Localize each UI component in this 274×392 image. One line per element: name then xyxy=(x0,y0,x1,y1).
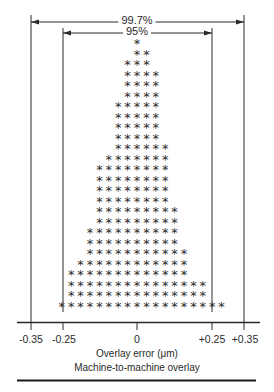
asterisk-mark: * xyxy=(190,299,197,314)
x-tick-label-p025: +0.25 xyxy=(199,333,226,345)
asterisk-mark: * xyxy=(200,299,207,314)
x-axis-title: Overlay error (μm) xyxy=(96,348,178,359)
x-tick-label-m035: -0.35 xyxy=(19,333,43,345)
chart-caption: Machine-to-machine overlay xyxy=(74,362,200,373)
asterisk-mark: * xyxy=(115,299,122,314)
asterisk-mark: * xyxy=(96,299,103,314)
x-tick-label-m025: -0.25 xyxy=(52,333,76,345)
asterisk-mark: * xyxy=(59,299,66,314)
asterisk-mark: * xyxy=(209,299,216,314)
asterisk-mark: * xyxy=(162,299,169,314)
asterisk-mark: * xyxy=(124,299,131,314)
asterisk-mark: * xyxy=(87,299,94,314)
asterisk-mark: * xyxy=(106,299,113,314)
asterisk-mark: * xyxy=(134,299,141,314)
asterisk-mark: * xyxy=(68,299,75,314)
x-tick-label-p035: +0.35 xyxy=(232,333,259,345)
asterisk-mark: * xyxy=(143,299,150,314)
asterisk-mark: * xyxy=(181,299,188,314)
x-axis xyxy=(17,322,260,330)
overlay-histogram-chart: ****************************************… xyxy=(0,0,274,392)
pct-95-label: 95% xyxy=(123,25,151,37)
asterisk-mark: * xyxy=(218,299,225,314)
asterisk-rows: ****************************************… xyxy=(59,36,226,314)
asterisk-mark: * xyxy=(171,299,178,314)
x-tick-label-0: 0 xyxy=(134,333,140,345)
asterisk-mark: * xyxy=(77,299,84,314)
asterisk-mark: * xyxy=(153,299,160,314)
